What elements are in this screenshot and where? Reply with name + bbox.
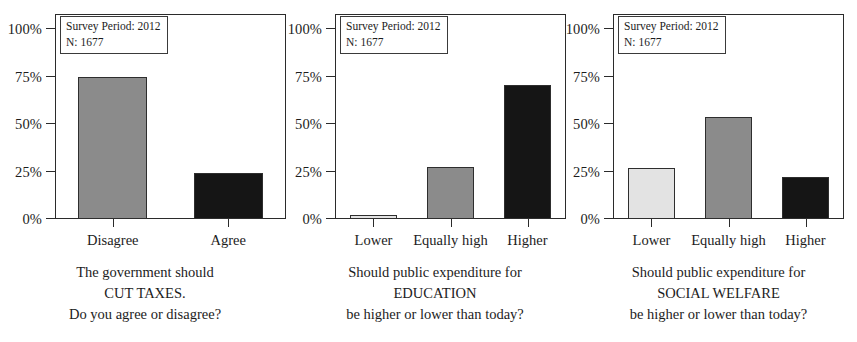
- panel-caption-1: The government should CUT TAXES. Do you …: [0, 262, 290, 325]
- x-axis-tick: [528, 219, 529, 227]
- panel-caption-2: Should public expenditure for EDUCATION …: [290, 262, 580, 325]
- plot-area-3: LowerEqually highHigher0%25%50%75%100% S…: [613, 14, 844, 219]
- y-axis-tick: [604, 76, 613, 77]
- caption-line-3: be higher or lower than today?: [290, 304, 580, 325]
- y-axis-label: 50%: [15, 116, 42, 133]
- caption-line-1: Should public expenditure for: [290, 262, 580, 283]
- chart-panel-cut-taxes: DisagreeAgree0%25%50%75%100% Survey Peri…: [0, 0, 290, 342]
- y-axis-tick: [46, 218, 55, 219]
- x-axis-tick: [228, 219, 229, 227]
- annotation-n-3: N: 1677: [624, 35, 719, 51]
- bar-equally-high: [427, 167, 473, 219]
- y-axis-label: 50%: [573, 116, 600, 133]
- annotation-period-3: Survey Period: 2012: [624, 19, 719, 35]
- y-axis-label: 25%: [15, 163, 42, 180]
- y-axis-label: 100%: [288, 21, 322, 38]
- survey-annotation-3: Survey Period: 2012 N: 1677: [618, 16, 726, 54]
- y-axis-label: 75%: [573, 68, 600, 85]
- plot-area-1: DisagreeAgree0%25%50%75%100% Survey Peri…: [55, 14, 286, 219]
- y-axis-tick: [326, 171, 335, 172]
- annotation-n-1: N: 1677: [66, 35, 161, 51]
- x-axis-label-lower: Lower: [355, 232, 393, 249]
- x-axis-tick: [651, 219, 652, 227]
- caption-line-1: The government should: [0, 262, 290, 283]
- y-axis-tick: [604, 218, 613, 219]
- caption-line-1: Should public expenditure for: [580, 262, 857, 283]
- y-axis-label: 100%: [566, 21, 600, 38]
- y-axis-tick: [46, 76, 55, 77]
- y-axis-label: 25%: [295, 163, 322, 180]
- y-axis-label: 75%: [295, 68, 322, 85]
- y-axis-label: 0%: [22, 211, 42, 228]
- bar-higher: [782, 177, 828, 219]
- chart-panel-social-welfare: LowerEqually highHigher0%25%50%75%100% S…: [580, 0, 857, 342]
- x-axis-tick: [451, 219, 452, 227]
- y-axis-label: 50%: [295, 116, 322, 133]
- caption-line-3: be higher or lower than today?: [580, 304, 857, 325]
- survey-annotation-1: Survey Period: 2012 N: 1677: [60, 16, 168, 54]
- bar-lower: [628, 168, 674, 219]
- y-axis-tick: [46, 123, 55, 124]
- y-axis-label: 75%: [15, 68, 42, 85]
- x-axis-tick: [373, 219, 374, 227]
- y-axis-tick: [604, 171, 613, 172]
- chart-panel-education: LowerEqually highHigher0%25%50%75%100% S…: [290, 0, 580, 342]
- y-axis-label: 0%: [302, 211, 322, 228]
- bar-higher: [504, 85, 550, 219]
- caption-line-2: CUT TAXES.: [0, 283, 290, 304]
- y-axis-tick: [326, 123, 335, 124]
- bar-agree: [194, 173, 263, 220]
- annotation-period-1: Survey Period: 2012: [66, 19, 161, 35]
- y-axis-tick: [326, 76, 335, 77]
- x-axis-label-equally-high: Equally high: [691, 232, 766, 249]
- bar-disagree: [78, 77, 147, 219]
- x-axis-label-higher: Higher: [785, 232, 825, 249]
- y-axis-tick: [604, 123, 613, 124]
- panel-caption-3: Should public expenditure for SOCIAL WEL…: [580, 262, 857, 325]
- y-axis-label: 100%: [8, 21, 42, 38]
- annotation-period-2: Survey Period: 2012: [346, 19, 441, 35]
- y-axis-tick: [326, 28, 335, 29]
- x-axis-label-equally-high: Equally high: [413, 232, 488, 249]
- annotation-n-2: N: 1677: [346, 35, 441, 51]
- x-axis-tick: [806, 219, 807, 227]
- bar-equally-high: [705, 117, 751, 220]
- x-axis-label-disagree: Disagree: [87, 232, 139, 249]
- bar-chart-figure: DisagreeAgree0%25%50%75%100% Survey Peri…: [0, 0, 857, 342]
- y-axis-label: 25%: [573, 163, 600, 180]
- y-axis-tick: [46, 28, 55, 29]
- y-axis-tick: [326, 218, 335, 219]
- y-axis-tick: [604, 28, 613, 29]
- y-axis-label: 0%: [580, 211, 600, 228]
- x-axis-label-agree: Agree: [211, 232, 246, 249]
- x-axis-label-lower: Lower: [633, 232, 671, 249]
- caption-line-2: SOCIAL WELFARE: [580, 283, 857, 304]
- x-axis-tick: [113, 219, 114, 227]
- y-axis-tick: [46, 171, 55, 172]
- survey-annotation-2: Survey Period: 2012 N: 1677: [340, 16, 448, 54]
- plot-area-2: LowerEqually highHigher0%25%50%75%100% S…: [335, 14, 566, 219]
- caption-line-3: Do you agree or disagree?: [0, 304, 290, 325]
- x-axis-tick: [729, 219, 730, 227]
- x-axis-label-higher: Higher: [507, 232, 547, 249]
- caption-line-2: EDUCATION: [290, 283, 580, 304]
